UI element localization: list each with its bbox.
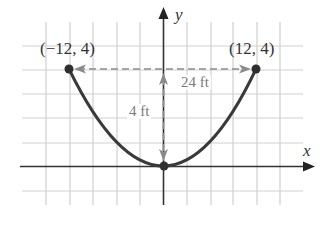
point-right-label: (12, 4)	[229, 40, 274, 57]
point-left	[65, 65, 74, 74]
y-axis-arrow-icon	[159, 7, 169, 19]
point-vertex	[160, 162, 169, 171]
parabola-figure: (−12, 4) (12, 4) 24 ft 4 ft y x	[0, 0, 329, 227]
width-dimension	[74, 65, 251, 74]
y-axis-label: y	[175, 6, 183, 23]
width-label: 24 ft	[179, 75, 211, 90]
x-axis-label: x	[303, 142, 311, 159]
graph-canvas	[0, 0, 329, 227]
height-label: 4 ft	[127, 104, 151, 119]
point-left-label: (−12, 4)	[40, 40, 95, 57]
point-right	[252, 65, 261, 74]
x-axis-arrow-icon	[303, 162, 315, 172]
